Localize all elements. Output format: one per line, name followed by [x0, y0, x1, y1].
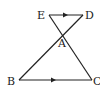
parallel-arrow-ed-icon [63, 13, 68, 18]
label-e: E [37, 9, 45, 22]
label-a: A [57, 37, 67, 50]
label-b: B [7, 75, 15, 88]
segment-ec [49, 15, 92, 80]
label-c: C [93, 75, 100, 88]
parallel-arrow-bc-icon [51, 78, 56, 83]
label-d: D [85, 9, 94, 22]
geometry-diagram: E D A B C [0, 0, 100, 90]
segment-db [19, 15, 83, 80]
